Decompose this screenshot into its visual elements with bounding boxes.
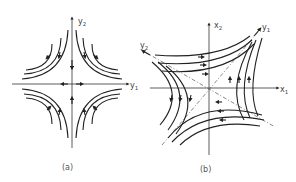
y1-eigen-label: y1 — [262, 23, 270, 33]
caption-a: (a) — [62, 163, 73, 172]
panel-a: y2 y1 (a) — [12, 17, 138, 172]
panel-b: x2 x1 y1 y2 (b) — [140, 21, 288, 174]
trajectories-b — [152, 36, 264, 145]
x1-axis-label: x1 — [280, 85, 288, 95]
y2-axis-label: y2 — [78, 17, 86, 27]
x2-axis-label: x2 — [214, 21, 222, 31]
caption-b: (b) — [200, 165, 211, 174]
phase-portrait-figure: y2 y1 (a) — [0, 0, 296, 182]
y1-axis-label: y1 — [130, 81, 138, 91]
y2-eigen-label: y2 — [140, 41, 148, 51]
